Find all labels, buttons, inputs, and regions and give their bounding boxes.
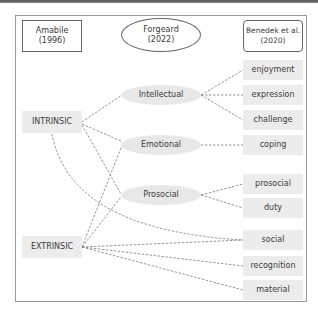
type-intellectual: Intellectual — [121, 85, 201, 105]
link-intellectual-challenge — [201, 95, 243, 120]
motive-challenge: challenge — [243, 110, 303, 130]
motive-material: material — [243, 280, 303, 300]
motive-recognition: recognition — [243, 256, 303, 276]
header-benedek-author: Benedek et al. — [246, 26, 300, 36]
link-extrinsic-recognition — [82, 247, 243, 266]
link-intrinsic-intellectual — [82, 95, 122, 122]
motive-social: social — [243, 230, 303, 250]
motive-expression: expression — [243, 85, 303, 105]
link-extrinsic-emotional — [82, 146, 121, 247]
type-emotional: Emotional — [121, 135, 201, 155]
category-extrinsic: EXTRINSIC — [22, 236, 82, 258]
link-prosocial-duty — [201, 195, 243, 208]
header-amabile-year: (1996) — [39, 36, 66, 46]
link-intrinsic-emotional — [82, 124, 121, 143]
header-forgeard: Forgeard (2022) — [121, 18, 201, 52]
motive-coping: coping — [243, 135, 303, 155]
header-benedek-year: (2020) — [261, 36, 286, 46]
header-amabile-author: Amabile — [36, 26, 69, 36]
motive-duty: duty — [243, 198, 303, 218]
type-prosocial: Prosocial — [121, 185, 201, 205]
motive-prosocial: prosocial — [243, 174, 303, 194]
link-extrinsic-social — [82, 240, 243, 247]
motive-enjoyment: enjoyment — [243, 60, 303, 80]
header-amabile: Amabile (1996) — [22, 20, 82, 52]
header-forgeard-year: (2022) — [148, 35, 175, 45]
header-benedek: Benedek et al. (2020) — [243, 20, 303, 52]
link-intellectual-enjoyment — [201, 70, 243, 95]
link-prosocial-prosocial — [201, 184, 243, 195]
category-intrinsic: INTRINSIC — [22, 111, 82, 133]
link-extrinsic-material — [82, 247, 243, 290]
link-intrinsic-prosocial — [82, 125, 121, 194]
header-forgeard-author: Forgeard — [143, 25, 179, 35]
